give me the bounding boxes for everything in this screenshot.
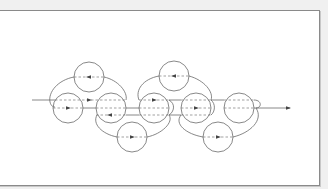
loop-mid-3-right bbox=[169, 100, 174, 115]
arrow-right-icon bbox=[130, 135, 135, 138]
arrow-right-icon bbox=[194, 106, 199, 109]
loop-mid-4-left bbox=[211, 100, 214, 115]
arrow-left-icon bbox=[86, 75, 91, 78]
arrow-right-icon bbox=[286, 106, 291, 109]
arrow-right-icon bbox=[216, 135, 221, 138]
arrow-left-icon bbox=[171, 74, 176, 77]
loop-mid-5-right bbox=[254, 100, 260, 108]
loop-bot-1-left bbox=[96, 115, 117, 137]
arrow-left-icon bbox=[107, 113, 112, 116]
loop-bot-1-right bbox=[147, 115, 170, 137]
loop-top-1-left bbox=[50, 77, 74, 107]
circle-path-diagram bbox=[0, 0, 328, 189]
arrow-right-icon bbox=[66, 106, 71, 109]
loop-top-1-right bbox=[104, 77, 126, 100]
arrow-right-icon bbox=[87, 98, 92, 101]
loop-top-2-left bbox=[138, 76, 159, 100]
arrow-right-icon bbox=[152, 98, 157, 101]
loop-top-2-right bbox=[189, 76, 212, 100]
loop-bot-2-left bbox=[179, 115, 203, 137]
